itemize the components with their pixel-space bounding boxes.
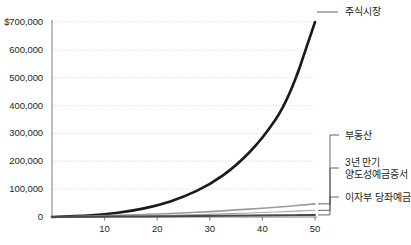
x-tick-label-30: 30 <box>195 223 225 234</box>
series-label-real-estate-text: 부동산 <box>345 130 372 141</box>
y-tick-label-400000: 400,000 <box>0 100 48 111</box>
series-label-checking: 이자부 당좌예금 <box>345 192 411 204</box>
x-tick-label-10: 10 <box>90 223 120 234</box>
chart-plot-area <box>0 0 411 245</box>
y-tick-label-500000: 500,000 <box>0 72 48 83</box>
y-tick-label-200000: 200,000 <box>0 155 48 166</box>
y-tick-label-100000: 100,000 <box>0 183 48 194</box>
x-tick-label-40: 40 <box>247 223 277 234</box>
series-label-cd: 3년 만기 양도성예금증서 <box>345 157 408 180</box>
y-tick-label-600000: 600,000 <box>0 44 48 55</box>
series-label-cd-line1: 3년 만기 <box>345 157 408 169</box>
series-label-checking-text: 이자부 당좌예금 <box>345 192 411 203</box>
leader-cd <box>318 168 339 204</box>
y-tick-label-300000: 300,000 <box>0 127 48 138</box>
leader-checking <box>318 197 339 215</box>
series-label-real-estate: 부동산 <box>345 130 372 142</box>
leader-real-estate <box>318 135 339 210</box>
x-tick-label-50: 50 <box>300 223 330 234</box>
series-label-stock-market: 주식시장 <box>345 6 381 18</box>
y-tick-label-700000: $700,000 <box>0 16 48 27</box>
chart-container: $700,000600,000500,000400,000300,000200,… <box>0 0 411 245</box>
series-line-stock-market <box>52 22 315 217</box>
y-tick-label-0: 0 <box>0 211 48 222</box>
x-tick-label-20: 20 <box>142 223 172 234</box>
y-axis-tick-labels: $700,000600,000500,000400,000300,000200,… <box>0 0 48 245</box>
series-label-cd-line2: 양도성예금증서 <box>345 169 408 181</box>
series-label-stock-market-text: 주식시장 <box>345 6 381 17</box>
